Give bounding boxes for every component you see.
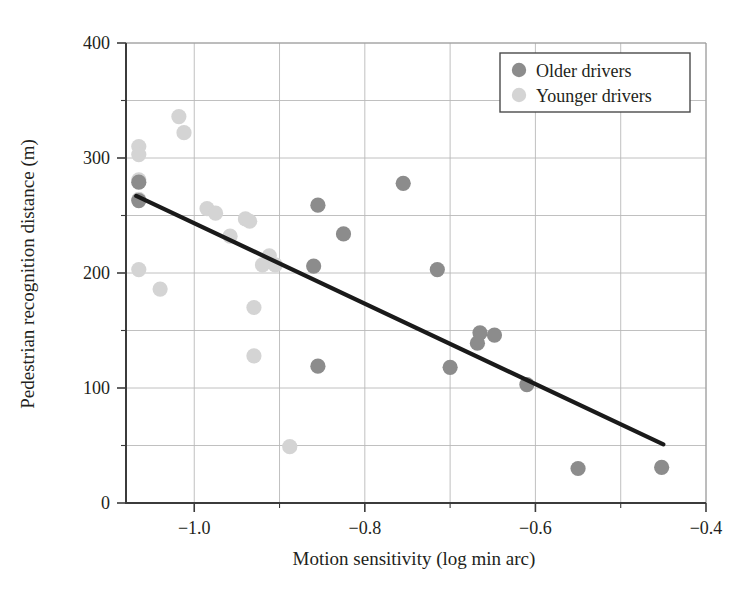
data-point (153, 282, 168, 297)
data-point (310, 359, 325, 374)
data-point (430, 262, 445, 277)
data-point (131, 147, 146, 162)
y-tick-label: 200 (83, 263, 110, 283)
chart-legend: Older driversYounger drivers (500, 53, 690, 112)
y-tick-label: 0 (101, 493, 110, 513)
data-point (310, 198, 325, 213)
x-tick-label: −0.4 (690, 518, 723, 538)
trend-line (136, 196, 663, 444)
axis-ticks (117, 43, 706, 512)
legend-marker (512, 88, 526, 102)
data-point (306, 259, 321, 274)
y-tick-label: 300 (83, 148, 110, 168)
y-tick-label: 400 (83, 33, 110, 53)
data-point (443, 360, 458, 375)
scatter-plot-figure: −1.0−0.8−0.6−0.40100200300400 Older driv… (0, 0, 752, 599)
data-point (282, 439, 297, 454)
chart-canvas: −1.0−0.8−0.6−0.40100200300400 Older driv… (0, 0, 752, 599)
legend-marker (512, 63, 526, 77)
x-axis-title: Motion sensitivity (log min arc) (293, 548, 536, 570)
x-tick-label: −1.0 (178, 518, 211, 538)
data-point (246, 300, 261, 315)
data-point (654, 460, 669, 475)
legend-label: Older drivers (536, 61, 631, 81)
data-point (246, 348, 261, 363)
data-point (131, 175, 146, 190)
y-tick-label: 100 (83, 378, 110, 398)
data-point (242, 214, 257, 229)
x-tick-label: −0.6 (519, 518, 552, 538)
regression-line (136, 196, 663, 444)
data-point (487, 328, 502, 343)
data-point (208, 206, 223, 221)
data-point (131, 262, 146, 277)
data-point (336, 226, 351, 241)
data-point (176, 125, 191, 140)
data-point (570, 461, 585, 476)
data-point (396, 176, 411, 191)
x-tick-label: −0.8 (348, 518, 381, 538)
data-point (171, 109, 186, 124)
y-axis-title: Pedestrian recognition distance (m) (17, 139, 39, 409)
legend-label: Younger drivers (536, 86, 652, 106)
data-point (470, 336, 485, 351)
data-points (131, 109, 669, 476)
